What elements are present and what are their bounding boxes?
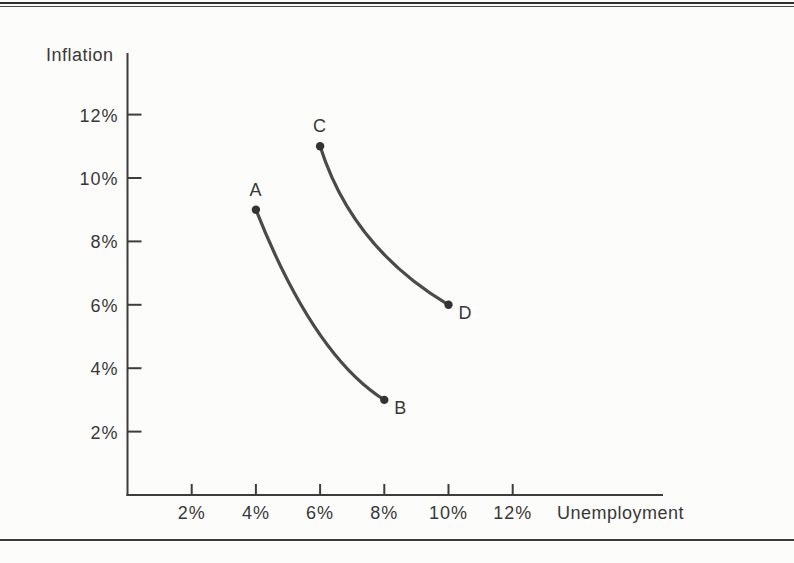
point-dot-D <box>444 301 452 309</box>
phillips-curve-2-path <box>320 146 448 304</box>
figure-page: Inflation Unemployment 2%4%6%8%10%12%2%4… <box>0 0 794 563</box>
point-dot-B <box>380 396 388 404</box>
phillips-curve-1-path <box>256 210 384 400</box>
phillips-curves-chart <box>0 0 794 563</box>
point-dot-C <box>316 142 324 150</box>
point-dot-A <box>252 206 260 214</box>
